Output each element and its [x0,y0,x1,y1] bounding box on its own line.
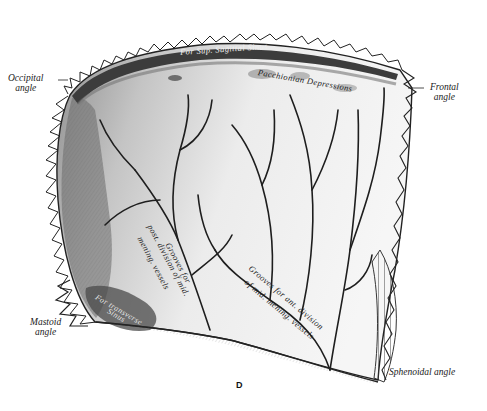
label-frontal-line1: Frontal [430,82,459,92]
bone-body [57,44,412,380]
plate-letter: D [236,380,243,390]
label-mastoid-line1: Mastoid [30,317,61,327]
label-mastoid-line2: angle [30,327,61,337]
pacchionian-depression [168,75,182,81]
label-occipital-line1: Occipital [8,73,43,83]
label-mastoid-angle: Mastoid angle [30,317,61,337]
label-frontal-angle: Frontal angle [430,82,459,102]
label-occipital-line2: angle [8,83,43,93]
label-frontal-line2: angle [430,92,459,102]
label-sphenoidal-angle: Sphenoidal angle [389,367,455,377]
label-occipital-angle: Occipital angle [8,73,43,93]
parietal-bone-illustration [0,0,487,411]
